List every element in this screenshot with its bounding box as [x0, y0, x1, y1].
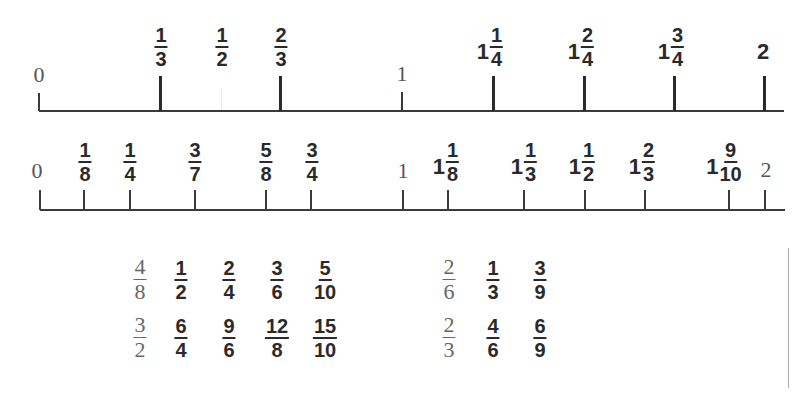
label-2-3: 2 3	[274, 25, 287, 69]
label-1-4: 1 4	[123, 140, 136, 184]
tick-1-2-3	[644, 190, 646, 210]
tick-0	[38, 93, 40, 111]
tick-1-1-4	[492, 76, 495, 111]
label-1-8: 1 8	[78, 140, 91, 184]
tick-2	[764, 190, 766, 210]
tick-1-1-2	[584, 190, 586, 210]
tick-1-4	[129, 190, 131, 210]
equivalent-fraction: 1 3	[486, 258, 499, 302]
label-1-3-4: 1 34	[658, 25, 684, 69]
equivalent-fraction: 5 10	[314, 258, 336, 302]
tick-1	[402, 190, 404, 210]
tick-1-1-8	[447, 190, 449, 210]
label-1-2: 1 2	[215, 25, 228, 69]
tick-1-3-4	[673, 76, 676, 111]
tick-3-7	[194, 190, 196, 210]
equivalent-fraction: 12 8	[265, 316, 289, 360]
tick-0	[39, 190, 41, 210]
equivalent-fraction: 9 6	[222, 316, 235, 360]
tick-5-8	[265, 190, 267, 210]
label-0: 0	[32, 160, 43, 182]
equivalent-fraction: 3 9	[533, 258, 546, 302]
given-fraction: 4 8	[134, 256, 147, 303]
label-1-2-4: 1 24	[568, 25, 594, 69]
equivalent-fraction: 1 2	[174, 258, 187, 302]
equivalent-fraction: 2 4	[222, 258, 235, 302]
label-0: 0	[34, 64, 45, 86]
given-fraction: 2 6	[443, 256, 456, 303]
number-line-2-axis	[40, 209, 785, 211]
tick-1-1-3	[523, 190, 525, 210]
tick-1	[401, 92, 403, 111]
tick-1-2	[221, 88, 222, 110]
label-5-8: 5 8	[259, 140, 272, 184]
given-fraction: 3 2	[134, 314, 147, 361]
tick-2-3	[279, 76, 282, 111]
equivalent-fraction: 6 4	[174, 316, 187, 360]
label-2: 2	[757, 41, 769, 63]
tick-3-4	[310, 190, 312, 210]
label-3-4: 3 4	[305, 140, 318, 184]
tick-1-2-4	[583, 76, 586, 111]
label-2: 2	[761, 159, 772, 181]
label-1-2-3: 1 23	[629, 140, 655, 184]
tick-1-9-10	[728, 190, 730, 210]
tick-1-3	[159, 76, 162, 111]
tick-1-8	[83, 190, 85, 210]
label-1-1-4: 1 14	[477, 25, 503, 69]
label-1: 1	[397, 63, 408, 85]
equivalent-fraction: 15 10	[313, 316, 337, 360]
tick-2	[763, 76, 766, 111]
equivalent-fraction: 6 9	[533, 316, 546, 360]
equivalent-fraction: 3 6	[270, 258, 283, 302]
equivalent-fraction: 4 6	[486, 316, 499, 360]
label-1-1-3: 1 13	[511, 140, 537, 184]
label-3-7: 3 7	[188, 140, 201, 184]
label-1-1-2: 1 12	[569, 140, 595, 184]
label-1-9-10: 1 910	[706, 140, 742, 184]
given-fraction: 2 3	[443, 314, 456, 361]
page-edge-divider	[788, 248, 789, 388]
label-1-3: 1 3	[154, 25, 167, 69]
label-1: 1	[398, 160, 409, 182]
label-1-1-8: 1 18	[433, 140, 459, 184]
